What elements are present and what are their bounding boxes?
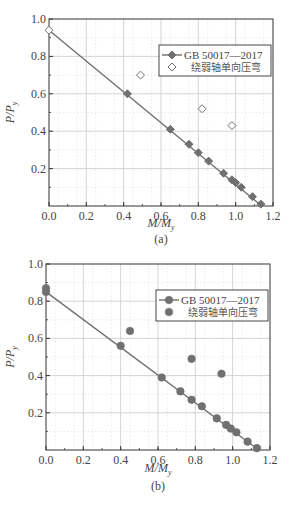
y-tick-label: 0.2	[28, 406, 43, 420]
x-axis-label: M/My	[144, 461, 172, 477]
y-tick-label: 1.0	[31, 12, 46, 26]
y-axis-label: P/Py	[3, 346, 19, 369]
y-tick-label: 0.4	[31, 124, 46, 138]
x-tick-label: 1.0	[225, 453, 240, 467]
figure-caption: (a)	[154, 232, 167, 246]
figure-caption: (b)	[151, 479, 165, 493]
y-tick-label: 1.0	[28, 257, 43, 271]
legend: GB 50017—2017绕弱轴单向压弯	[159, 45, 271, 76]
chart-panel-a: 0.00.20.40.60.81.01.20.20.40.60.81.0M/My…	[0, 0, 291, 250]
x-tick-label: 1.2	[266, 209, 281, 223]
legend-label-gb50017: GB 50017—2017	[184, 49, 263, 61]
chart-b-canvas: 0.00.20.40.60.81.01.20.20.40.60.81.0M/My…	[0, 250, 291, 508]
x-axis-label: M/My	[147, 216, 175, 232]
chart-a-canvas: 0.00.20.40.60.81.01.20.20.40.60.81.0M/My…	[0, 0, 291, 250]
y-tick-label: 0.4	[28, 369, 43, 383]
x-tick-label: 0.0	[42, 209, 57, 223]
x-tick-label: 0.4	[113, 453, 128, 467]
chart-panel-b: 0.00.20.40.60.81.01.20.20.40.60.81.0M/My…	[0, 250, 291, 508]
legend-label-weak-axis: 绕弱轴单向压弯	[188, 306, 258, 318]
x-tick-label: 0.0	[39, 453, 54, 467]
y-tick-label: 0.6	[31, 87, 46, 101]
y-tick-label: 0.8	[28, 294, 43, 308]
x-tick-label: 0.4	[116, 209, 131, 223]
y-axis-label: P/Py	[3, 101, 19, 124]
legend-label-gb50017: GB 50017—2017	[181, 294, 260, 306]
y-tick-label: 0.2	[31, 162, 46, 176]
legend: GB 50017—2017绕弱轴单向压弯	[156, 290, 268, 321]
x-tick-label: 1.2	[263, 453, 278, 467]
y-tick-label: 0.8	[31, 49, 46, 63]
x-tick-label: 0.8	[188, 453, 203, 467]
x-tick-label: 0.2	[79, 209, 94, 223]
x-tick-label: 0.8	[191, 209, 206, 223]
x-tick-label: 0.2	[76, 453, 91, 467]
y-tick-label: 0.6	[28, 331, 43, 345]
x-tick-label: 1.0	[228, 209, 243, 223]
legend-label-weak-axis: 绕弱轴单向压弯	[191, 61, 261, 73]
